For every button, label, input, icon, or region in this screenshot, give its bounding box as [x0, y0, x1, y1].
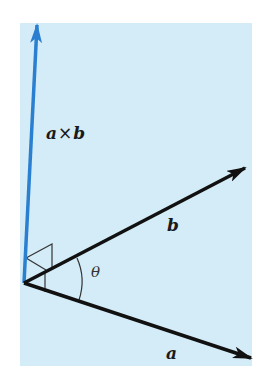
label-cross-left: a	[46, 123, 57, 143]
label-a-cross-b: a×b	[46, 123, 85, 143]
label-b: b	[167, 215, 179, 235]
cross-product-diagram: a×b b θ a	[0, 0, 266, 382]
label-theta: θ	[91, 263, 100, 281]
label-cross-right: b	[73, 123, 85, 143]
label-cross-op: ×	[58, 123, 72, 143]
diagram-panel	[20, 23, 252, 366]
label-a: a	[166, 343, 177, 363]
